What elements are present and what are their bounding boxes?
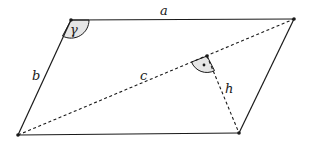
vertex-bottom-right [237, 131, 241, 135]
label-c: c [140, 68, 148, 83]
label-a: a [160, 3, 168, 18]
side-bottom [18, 133, 239, 135]
diagonal-c [18, 19, 294, 135]
side-a [71, 19, 294, 20]
parallelogram-diagram: a b c h γ [0, 0, 310, 146]
vertex-top-right [292, 17, 296, 21]
label-b: b [32, 68, 40, 83]
label-gamma: γ [70, 22, 78, 37]
foot-of-height-point [205, 54, 209, 58]
vertex-bottom-left [16, 133, 20, 137]
side-b [18, 20, 71, 135]
height-h [207, 56, 239, 133]
label-h: h [225, 81, 233, 96]
diagram-canvas: a b c h γ [0, 0, 310, 146]
right-angle-dot [203, 64, 206, 67]
side-right [239, 19, 294, 133]
